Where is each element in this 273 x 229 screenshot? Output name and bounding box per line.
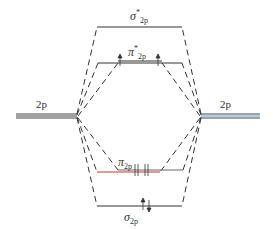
electron-up-arrow (156, 54, 160, 66)
pi-2p-orbital (97, 170, 183, 172)
sigma-2p-label: σ2p (124, 210, 138, 226)
electron-up-arrow (141, 198, 145, 210)
pi-star-2p-label: π*2p (128, 44, 146, 61)
mo-diagram: 2p 2p σ*2p π*2p (0, 0, 273, 229)
right-2p-levels (201, 114, 260, 118)
pi-2p-label: π2p (118, 155, 132, 171)
right-2p-label: 2p (220, 98, 232, 110)
left-2p-levels (16, 114, 77, 118)
sigma-2p-electrons (141, 198, 151, 212)
pi-star-2p-orbital (98, 61, 182, 63)
sigma-star-2p-label: σ*2p (130, 8, 148, 25)
electron-up-arrow (118, 54, 122, 66)
left-2p-label: 2p (36, 98, 48, 110)
